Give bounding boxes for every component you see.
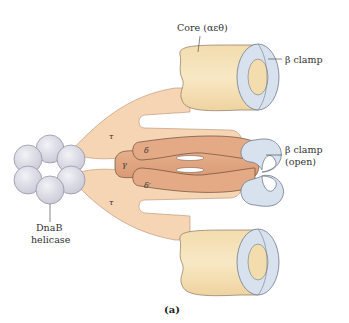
core-top [180, 44, 279, 111]
clamp-loader-complex [115, 136, 259, 192]
figure-caption: (a) [164, 304, 180, 315]
gamma-label: γ [122, 160, 127, 169]
dnab-helicase [14, 135, 85, 204]
helicase-label: helicase [31, 234, 70, 245]
delta-prime-label: δ′ [144, 181, 151, 190]
tau-bottom-label: τ [109, 198, 113, 207]
delta-label: δ [144, 146, 149, 155]
beta-clamp-open-sublabel: (open) [285, 156, 316, 167]
core-label: Core (αεθ) [177, 22, 228, 33]
beta-clamp-label: β clamp [285, 54, 323, 65]
dnab-label: DnaB [36, 222, 62, 233]
beta-clamp-open-label: β clamp [285, 144, 323, 155]
core-bottom [180, 229, 279, 296]
tau-top-label: τ [109, 132, 113, 141]
